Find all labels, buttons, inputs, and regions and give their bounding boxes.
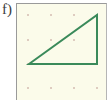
right-triangle <box>29 15 97 64</box>
grid-dot <box>73 39 75 41</box>
dot-grid-drawing <box>0 0 110 100</box>
grid-dot <box>50 39 52 41</box>
grid-dot <box>96 87 98 89</box>
grid-dot <box>27 87 29 89</box>
grid-dot <box>27 39 29 41</box>
grid-dot <box>27 14 29 16</box>
grid-dot <box>50 14 52 16</box>
grid-dots <box>27 14 98 89</box>
grid-dot <box>73 14 75 16</box>
grid-dot <box>73 87 75 89</box>
exercise-f: f) <box>0 0 110 100</box>
grid-dot <box>50 87 52 89</box>
